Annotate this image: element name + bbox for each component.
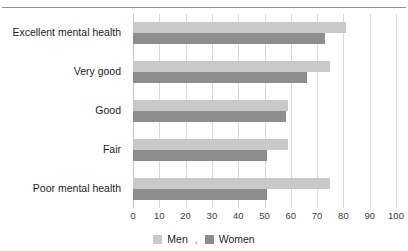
x-tick-label: 20 (180, 210, 191, 221)
legend-label: Women (219, 233, 255, 245)
bar-rows (133, 14, 396, 208)
x-tick-label: 80 (338, 210, 349, 221)
bar-women (133, 189, 267, 200)
x-tick-label: 50 (259, 210, 270, 221)
category-label: Poor mental health (0, 182, 121, 194)
chart-legend: Men,Women (0, 231, 408, 247)
bar-row (133, 178, 396, 200)
bar-men (133, 178, 330, 189)
legend-swatch-icon (205, 235, 214, 244)
gridline-100 (396, 14, 397, 208)
legend-swatch-icon (153, 235, 162, 244)
category-label: Good (0, 104, 121, 116)
bar-row (133, 22, 396, 44)
bar-men (133, 139, 288, 150)
bar-women (133, 111, 286, 122)
x-tick-label: 40 (233, 210, 244, 221)
x-tick-label: 30 (207, 210, 218, 221)
bar-women (133, 33, 325, 44)
legend-separator: , (193, 233, 200, 245)
category-label: Fair (0, 143, 121, 155)
x-tick-label: 90 (364, 210, 375, 221)
x-tick-label: 70 (312, 210, 323, 221)
bar-women (133, 72, 307, 83)
clipped-title-strip (0, 0, 408, 7)
bar-men (133, 61, 330, 72)
category-axis-labels: Excellent mental healthVery goodGoodFair… (0, 14, 128, 208)
x-tick-label: 100 (388, 210, 404, 221)
bar-row (133, 61, 396, 83)
category-label: Excellent mental health (0, 26, 121, 38)
x-tick-label: 10 (154, 210, 165, 221)
bar-women (133, 150, 267, 161)
legend-label: Men (167, 233, 187, 245)
legend-item-men[interactable]: Men (153, 233, 187, 245)
x-axis-ticks: 0102030405060708090100 (133, 210, 396, 224)
chart-page: Excellent mental healthVery goodGoodFair… (0, 0, 408, 251)
x-tick-label: 60 (286, 210, 297, 221)
category-label: Very good (0, 65, 121, 77)
legend-item-women[interactable]: Women (205, 233, 255, 245)
top-horizontal-rule (2, 7, 406, 8)
bar-men (133, 22, 346, 33)
x-tick-label: 0 (130, 210, 135, 221)
bar-row (133, 139, 396, 161)
bar-men (133, 100, 288, 111)
bar-row (133, 100, 396, 122)
plot-area (133, 14, 396, 208)
